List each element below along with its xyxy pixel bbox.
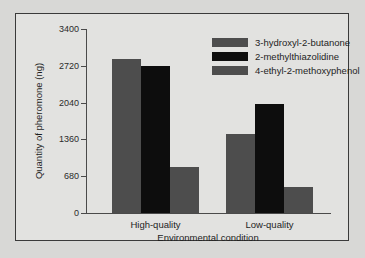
x-axis-title: Environmental condition (157, 232, 258, 243)
legend-swatch (212, 38, 248, 47)
legend-label: 3-hydroxyl-2-butanone (255, 38, 350, 48)
y-axis-line (86, 29, 87, 214)
y-axis-tick-label: 0 (74, 208, 79, 218)
y-axis-tick-mark (81, 103, 86, 104)
bar (170, 167, 199, 213)
bar (141, 66, 170, 213)
y-axis-tick-mark (81, 29, 86, 30)
x-axis-group-label: Low-quality (245, 219, 293, 230)
legend-swatch (212, 52, 248, 61)
y-axis-tick-label: 2720 (59, 61, 79, 71)
y-axis-tick-mark (81, 176, 86, 177)
y-axis-tick-label: 2040 (59, 98, 79, 108)
bar (284, 187, 313, 213)
figure-frame: 06801360204027203400 High-qualityLow-qua… (15, 13, 349, 241)
y-axis-tick-label: 1360 (59, 134, 79, 144)
y-axis-tick-label: 680 (64, 171, 79, 181)
bar (112, 59, 141, 213)
legend-label: 4-ethyl-2-methoxyphenol (255, 66, 360, 76)
legend-label: 2-methylthiazolidine (255, 52, 339, 62)
legend-swatch (212, 66, 248, 75)
y-axis-title: Quantity of pheromone (ng) (33, 63, 44, 179)
x-axis-group-label: High-quality (130, 219, 180, 230)
legend-item: 2-methylthiazolidine (212, 50, 360, 63)
y-axis-tick-mark (81, 139, 86, 140)
legend: 3-hydroxyl-2-butanone2-methylthiazolidin… (212, 36, 360, 78)
y-axis-tick-mark (81, 66, 86, 67)
y-axis-tick-label: 3400 (59, 24, 79, 34)
bar (226, 134, 255, 213)
bar (255, 104, 284, 213)
legend-item: 3-hydroxyl-2-butanone (212, 36, 360, 49)
legend-item: 4-ethyl-2-methoxyphenol (212, 64, 360, 77)
x-axis-line (86, 213, 331, 214)
y-axis-tick-mark (81, 213, 86, 214)
